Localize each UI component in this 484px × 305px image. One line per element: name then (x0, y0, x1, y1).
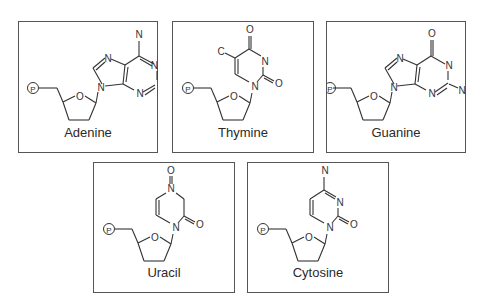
atom-label: N (458, 85, 465, 96)
atom-label: P (327, 85, 332, 94)
panel-thymine: P O N C O N O Thymine (172, 21, 314, 153)
atom-label: N (136, 88, 143, 99)
panel-label-uracil: Uracil (94, 265, 234, 280)
atom-label: N (261, 56, 268, 67)
atom-label: N (390, 82, 397, 93)
panel-label-thymine: Thymine (173, 125, 313, 140)
atom-label: N (326, 222, 333, 233)
atom-label: N (336, 197, 343, 208)
atom-label: O (76, 91, 84, 102)
atom-label: N (151, 60, 158, 71)
atom-label: N (321, 165, 328, 176)
atom-label: P (185, 85, 190, 94)
atom-label: O (350, 219, 358, 230)
panel-label-guanine: Guanine (327, 125, 465, 140)
atom-label: O (428, 28, 436, 39)
atom-label: O (230, 91, 238, 102)
panel-uracil: P O N N O O Uracil (93, 162, 235, 293)
panel-label-cytosine: Cytosine (248, 265, 388, 280)
atom-label: N (251, 81, 258, 92)
atom-label: O (275, 78, 283, 89)
panel-cytosine: P O N N N O Cytosine (247, 162, 389, 293)
atom-label: N (97, 82, 104, 93)
atom-label: N (396, 53, 403, 64)
atom-label: P (260, 226, 265, 235)
atom-label: O (151, 232, 159, 243)
atom-label: N (428, 88, 435, 99)
atom-label: N (135, 29, 142, 40)
atom-label: O (305, 232, 313, 243)
atom-label: P (106, 226, 111, 235)
panel-guanine: P O N N O N N N Guanine (326, 21, 466, 153)
atom-label: O (167, 165, 175, 176)
atom-label: O (196, 219, 204, 230)
atom-label: O (370, 91, 378, 102)
atom-label: N (104, 53, 111, 64)
atom-label: N (445, 60, 452, 71)
atom-label: C (217, 46, 224, 57)
panel-label-adenine: Adenine (19, 125, 157, 140)
atom-label: P (30, 85, 35, 94)
atom-label: O (246, 24, 254, 35)
atom-label: N (172, 222, 179, 233)
atom-label: N (167, 183, 174, 194)
panel-adenine: P O N N N N N Adenine (18, 21, 158, 153)
